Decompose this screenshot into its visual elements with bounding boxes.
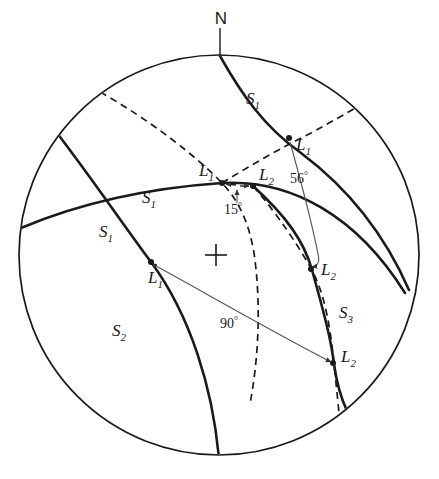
- point-l2-center-top: [250, 183, 256, 189]
- point-l1-center-top: [219, 180, 225, 186]
- stereonet-canvas: N S1 S1 S1 S2 S3 L1 L1: [0, 0, 439, 479]
- point-l2-mid-right: [308, 266, 314, 272]
- point-l2-bottom-right: [330, 360, 336, 366]
- stereonet-figure: N S1 S1 S1 S2 S3 L1 L1: [0, 0, 439, 479]
- point-l1-upper-right: [286, 135, 292, 141]
- point-l1-lower-left: [148, 259, 154, 265]
- north-label: N: [215, 9, 227, 28]
